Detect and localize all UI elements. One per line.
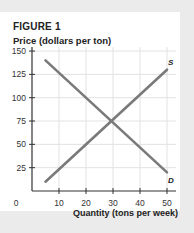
tick-labels: 25507510012515001020304050 (12, 46, 172, 208)
curve-s (46, 70, 168, 182)
y-tick-label: 150 (12, 46, 26, 56)
x-tick-label: 30 (108, 198, 118, 208)
x-tick-label: 50 (162, 198, 172, 208)
y-tick-label: 125 (12, 69, 26, 79)
curve-d (46, 60, 168, 172)
axes (29, 47, 176, 194)
y-tick-label: 25 (17, 163, 27, 173)
x-tick-label: 10 (54, 198, 64, 208)
supply-demand-chart: 25507510012515001020304050 DS (0, 0, 194, 233)
curve-label-d: D (168, 176, 174, 185)
y-tick-label: 50 (17, 139, 27, 149)
x-tick-label: 40 (135, 198, 145, 208)
curve-label-s: S (168, 58, 174, 67)
x-tick-label: 20 (81, 198, 91, 208)
x-tick-label: 0 (14, 198, 19, 208)
y-tick-label: 75 (17, 116, 27, 126)
y-tick-label: 100 (12, 93, 26, 103)
